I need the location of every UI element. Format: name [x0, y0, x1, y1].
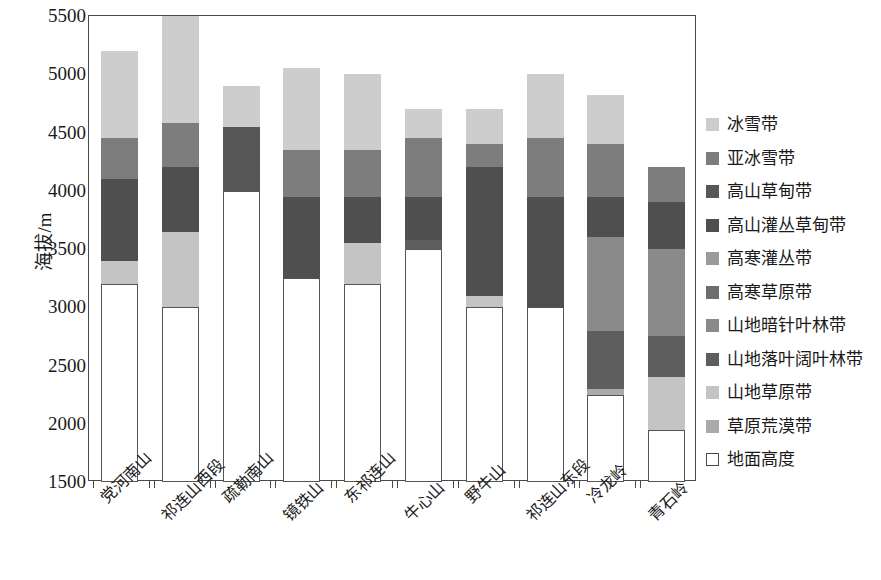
- bar-segment[interactable]: [587, 331, 624, 389]
- bar-segment[interactable]: [162, 167, 199, 231]
- legend-swatch-icon: [706, 152, 719, 165]
- stacked-bar[interactable]: [283, 16, 320, 482]
- legend-item-label: 山地暗针叶林带: [727, 317, 846, 334]
- x-category-label: 青石岭: [642, 475, 693, 526]
- stacked-bar[interactable]: [648, 16, 685, 482]
- bar-segment[interactable]: [344, 243, 381, 284]
- x-tick-mark: [336, 481, 337, 488]
- legend-item[interactable]: 高山草甸带: [706, 175, 878, 209]
- bar-segment[interactable]: [466, 296, 503, 308]
- bar-segment[interactable]: [587, 144, 624, 196]
- legend-item[interactable]: 冰雪带: [706, 108, 878, 142]
- x-tick-mark: [519, 481, 520, 488]
- stacked-bar[interactable]: [344, 16, 381, 482]
- legend-swatch-icon: [706, 353, 719, 366]
- bar-segment[interactable]: [587, 389, 624, 395]
- bar-segment[interactable]: [648, 377, 685, 429]
- bar-segment[interactable]: [405, 197, 442, 240]
- x-category-label: 牛心山: [398, 475, 449, 526]
- bar-segment[interactable]: [466, 307, 503, 482]
- bar-segment[interactable]: [648, 202, 685, 249]
- legend-swatch-icon: [706, 252, 719, 265]
- legend-item[interactable]: 山地暗针叶林带: [706, 309, 878, 343]
- y-tick-label: 2500: [30, 355, 86, 374]
- x-category-label: 镜铁山: [277, 475, 328, 526]
- bar-segment[interactable]: [648, 336, 685, 377]
- bar-segment[interactable]: [587, 237, 624, 330]
- stacked-bar[interactable]: [527, 16, 564, 482]
- bar-segment[interactable]: [283, 197, 320, 279]
- bar-segment[interactable]: [101, 51, 138, 138]
- y-tick-label: 3000: [30, 297, 86, 316]
- stacked-bar[interactable]: [405, 16, 442, 482]
- legend-item[interactable]: 高山灌丛草甸带: [706, 209, 878, 243]
- legend-item-label: 高寒灌丛带: [727, 250, 812, 267]
- legend-item[interactable]: 高寒灌丛带: [706, 242, 878, 276]
- y-tick-label: 4500: [30, 122, 86, 141]
- legend-swatch-icon: [706, 319, 719, 332]
- bar-segment[interactable]: [405, 138, 442, 196]
- y-tick-label: 5500: [30, 6, 86, 25]
- bar-segment[interactable]: [527, 138, 564, 196]
- legend-item-label: 亚冰雪带: [727, 150, 795, 167]
- bar-segment[interactable]: [527, 197, 564, 308]
- legend-item[interactable]: 山地落叶阔叶林带: [706, 343, 878, 377]
- bar-segment[interactable]: [223, 127, 260, 191]
- bar-segment[interactable]: [162, 123, 199, 167]
- stacked-bar[interactable]: [466, 16, 503, 482]
- bar-segment[interactable]: [283, 278, 320, 482]
- stacked-bar[interactable]: [101, 16, 138, 482]
- bar-segment[interactable]: [648, 430, 685, 482]
- legend-swatch-icon: [706, 420, 719, 433]
- bar-segment[interactable]: [527, 74, 564, 138]
- legend-item-label: 高山草甸带: [727, 183, 812, 200]
- bar-segment[interactable]: [344, 74, 381, 150]
- legend-item[interactable]: 草原荒漠带: [706, 410, 878, 444]
- bar-segment[interactable]: [223, 191, 260, 482]
- legend-swatch-icon: [706, 118, 719, 131]
- bar-segment[interactable]: [283, 150, 320, 197]
- legend-item-label: 山地落叶阔叶林带: [727, 351, 863, 368]
- stacked-bar[interactable]: [162, 16, 199, 482]
- x-tick-mark: [275, 481, 276, 488]
- bar-segment[interactable]: [405, 240, 442, 249]
- x-tick-mark: [93, 481, 94, 488]
- bar-segment[interactable]: [405, 249, 442, 482]
- bar-segment[interactable]: [344, 150, 381, 197]
- bar-segment[interactable]: [101, 261, 138, 284]
- bar-segment[interactable]: [587, 197, 624, 238]
- bar-segment[interactable]: [648, 249, 685, 336]
- bar-segment[interactable]: [162, 16, 199, 123]
- stacked-bar[interactable]: [223, 16, 260, 482]
- legend-item[interactable]: 高寒草原带: [706, 276, 878, 310]
- bar-segment[interactable]: [101, 179, 138, 261]
- bar-segment[interactable]: [466, 167, 503, 295]
- x-tick-mark: [635, 481, 636, 488]
- plot-area: [88, 15, 696, 481]
- legend-swatch-icon: [706, 185, 719, 198]
- bar-segment[interactable]: [587, 95, 624, 144]
- bar-segment[interactable]: [223, 86, 260, 127]
- bar-segment[interactable]: [466, 144, 503, 167]
- bar-segment[interactable]: [466, 109, 503, 144]
- y-tick-label: 2000: [30, 413, 86, 432]
- bar-segment[interactable]: [405, 109, 442, 138]
- x-tick-mark: [397, 481, 398, 488]
- stacked-bar[interactable]: [587, 16, 624, 482]
- chart-legend: 冰雪带亚冰雪带高山草甸带高山灌丛草甸带高寒灌丛带高寒草原带山地暗针叶林带山地落叶…: [706, 108, 878, 477]
- legend-item[interactable]: 亚冰雪带: [706, 142, 878, 176]
- bar-segment[interactable]: [283, 68, 320, 150]
- legend-item-label: 高山灌丛草甸带: [727, 217, 846, 234]
- bar-segment[interactable]: [344, 197, 381, 244]
- bar-segment[interactable]: [162, 307, 199, 482]
- legend-item-label: 冰雪带: [727, 116, 778, 133]
- bar-segment[interactable]: [527, 307, 564, 482]
- x-tick-mark: [458, 481, 459, 488]
- legend-swatch-icon: [706, 453, 719, 466]
- bar-segment[interactable]: [162, 232, 199, 308]
- legend-item[interactable]: 山地草原带: [706, 376, 878, 410]
- bar-segment[interactable]: [101, 138, 138, 179]
- legend-item[interactable]: 地面高度: [706, 443, 878, 477]
- bar-segment[interactable]: [648, 167, 685, 202]
- legend-swatch-icon: [706, 386, 719, 399]
